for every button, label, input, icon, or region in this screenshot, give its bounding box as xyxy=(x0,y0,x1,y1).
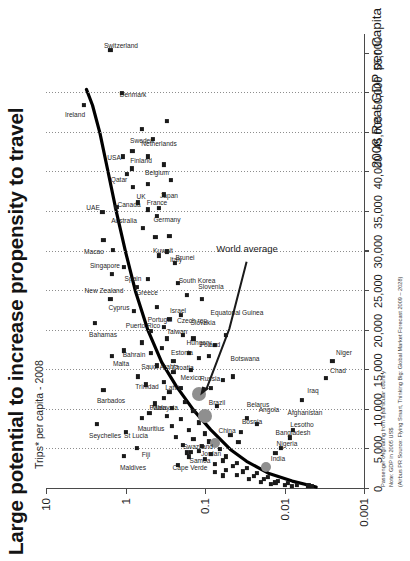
x-axis-line xyxy=(364,34,365,489)
y-tick-label: 0.1 xyxy=(199,498,211,514)
x-tick xyxy=(364,409,369,410)
y-tick xyxy=(364,489,365,494)
x-tick-label: 35,000 xyxy=(372,195,384,229)
x-tick xyxy=(364,448,369,449)
footnote-line-3: (Airbus PR Source: Flying Smart, Thinkin… xyxy=(396,277,404,487)
footnote-line-1: Passenger originating from a particular … xyxy=(379,277,387,487)
x-tick xyxy=(364,250,369,251)
plot-area: 05,00010,00015,00020,00025,00030,00035,0… xyxy=(46,34,364,489)
x-tick xyxy=(364,369,369,370)
footnotes: Passenger originating from a particular … xyxy=(379,277,404,487)
world-average-leader xyxy=(46,34,364,489)
x-tick xyxy=(364,290,369,291)
x-tick xyxy=(364,211,369,212)
x-tick-label: 30,000 xyxy=(372,235,384,269)
y-tick xyxy=(46,489,47,494)
world-average-label: World average xyxy=(216,242,278,253)
figure-rotor: Large potential to increase propensity t… xyxy=(0,0,410,561)
y-tick-label: 0.01 xyxy=(279,498,291,520)
y-axis-title: Trips* per capita - 2008 xyxy=(33,360,45,469)
x-tick xyxy=(364,330,369,331)
y-tick xyxy=(285,489,286,494)
x-tick xyxy=(364,171,369,172)
y-tick-label: 0.001 xyxy=(358,498,370,527)
y-tick-label: 10 xyxy=(40,498,52,511)
chart-figure: Large potential to increase propensity t… xyxy=(0,0,410,561)
x-axis-title: 2008 Real GDP per Capita xyxy=(369,8,384,168)
y-tick-label: 1 xyxy=(120,498,132,504)
y-tick xyxy=(205,489,206,494)
page-title: Large potential to increase propensity t… xyxy=(4,108,28,555)
footnote-line-2: Note: GDP in 2005 US$ xyxy=(387,277,395,487)
y-tick xyxy=(126,489,127,494)
